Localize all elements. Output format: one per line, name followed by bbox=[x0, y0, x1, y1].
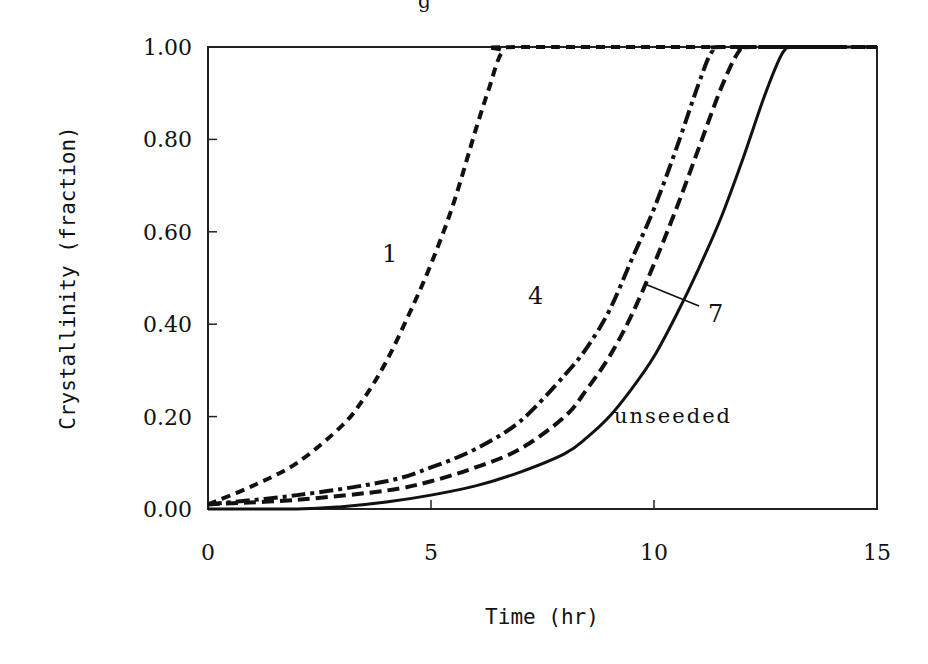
curve-label-unseeded: unseeded bbox=[614, 404, 732, 428]
curve-label-7: 7 bbox=[708, 300, 723, 328]
data-curves bbox=[208, 47, 877, 509]
y-tick-label: 0.00 bbox=[143, 497, 192, 522]
title-fragment: g bbox=[418, 0, 431, 13]
x-tick-label: 0 bbox=[201, 540, 215, 565]
x-axis-title: Time (hr) bbox=[485, 605, 599, 629]
y-axis-title: Crystallinity (fraction) bbox=[56, 126, 80, 429]
curve-label-1: 1 bbox=[382, 240, 397, 268]
x-tick-label: 15 bbox=[863, 540, 891, 565]
axis-ticks bbox=[208, 139, 654, 509]
y-tick-label: 1.00 bbox=[143, 35, 192, 60]
x-tick-label: 10 bbox=[640, 540, 668, 565]
y-tick-label: 0.40 bbox=[143, 312, 192, 337]
y-tick-label: 0.60 bbox=[143, 220, 192, 245]
y-tick-label: 0.80 bbox=[143, 127, 192, 152]
x-tick-label: 5 bbox=[424, 540, 438, 565]
plot-frame bbox=[208, 47, 877, 509]
y-tick-label: 0.20 bbox=[143, 405, 192, 430]
curve-7 bbox=[208, 47, 877, 504]
curve-unseeded bbox=[208, 47, 877, 509]
crystallinity-chart: g 0510150.000.200.400.600.801.00 Time (h… bbox=[0, 0, 928, 664]
curve-label-4: 4 bbox=[528, 282, 543, 310]
